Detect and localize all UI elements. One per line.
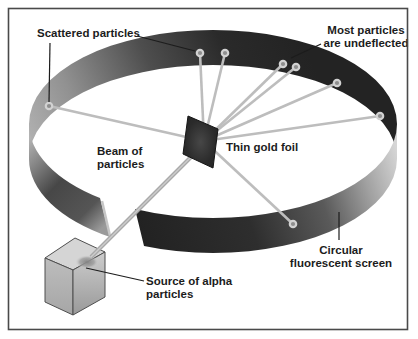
label-thin-gold-foil: Thin gold foil (226, 141, 298, 153)
label-source-line2: particles (146, 288, 193, 300)
label-most-particles-line2: are undeflected (324, 37, 409, 49)
label-beam-line1: Beam of (97, 145, 143, 157)
label-screen-line1: Circular (319, 244, 363, 256)
label-scattered-particles: Scattered particles (37, 27, 140, 39)
label-source-line1: Source of alpha (146, 275, 233, 287)
particle-hit-dot-core (281, 62, 285, 66)
rutherford-experiment-figure: Scattered particles Most particles are u… (0, 0, 418, 339)
particle-hit-dot-core (294, 65, 298, 69)
particle-hit-dot-core (198, 51, 202, 55)
particle-hit-dot-core (335, 81, 339, 85)
label-screen-line2: fluorescent screen (290, 257, 392, 269)
particle-hit-dot-core (223, 51, 227, 55)
label-beam-line2: particles (97, 158, 144, 170)
particle-hit-dot-core (291, 222, 295, 226)
label-most-particles-line1: Most particles (327, 24, 404, 36)
rutherford-diagram: Scattered particles Most particles are u… (0, 0, 418, 339)
particle-hit-dot-core (47, 104, 51, 108)
source-emission-spot (75, 255, 99, 269)
particle-hit-dot-core (378, 114, 382, 118)
